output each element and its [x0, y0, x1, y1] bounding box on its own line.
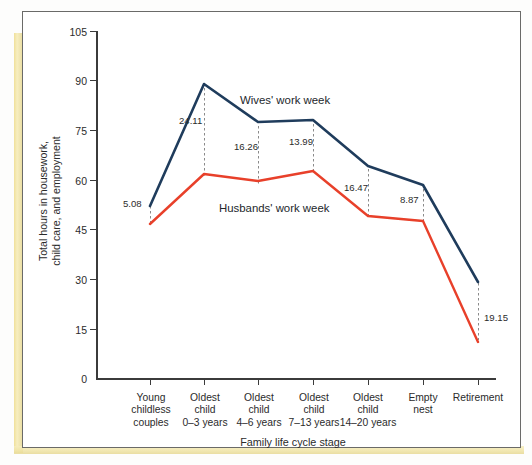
x-tick-label-4-line3: 14–20 years [332, 417, 404, 429]
series-label-husbands: Husbands' work week [219, 202, 329, 214]
figure-page: 105 90 75 60 45 30 15 0 [0, 0, 532, 465]
x-tick-label-6: Retirement [442, 392, 514, 404]
y-axis-title: Total hours in housework, child care, an… [37, 106, 63, 296]
series-line-wives [150, 84, 478, 282]
y-axis-title-line2: child care, and employment [50, 106, 63, 296]
y-axis-title-line1: Total hours in housework, [37, 106, 50, 296]
chart-plot-area: 105 90 75 60 45 30 15 0 [23, 12, 522, 449]
gap-label-4: 16.47 [344, 182, 368, 193]
gap-label-0: 5.08 [123, 198, 142, 209]
gap-label-5: 8.87 [400, 194, 419, 205]
x-tick-label-5-line2: nest [387, 404, 459, 416]
x-axis-title: Family life cycle stage [163, 436, 423, 448]
gap-label-6: 19.15 [484, 312, 508, 323]
gap-label-1: 24.11 [179, 115, 202, 126]
x-tick-label-6-line1: Retirement [442, 392, 514, 404]
figure-frame: 105 90 75 60 45 30 15 0 [22, 11, 521, 448]
gap-label-2: 16.26 [234, 141, 258, 152]
series-label-wives: Wives' work week [240, 94, 330, 106]
gap-label-3: 13.99 [289, 136, 313, 147]
chart-series-svg [23, 12, 522, 449]
